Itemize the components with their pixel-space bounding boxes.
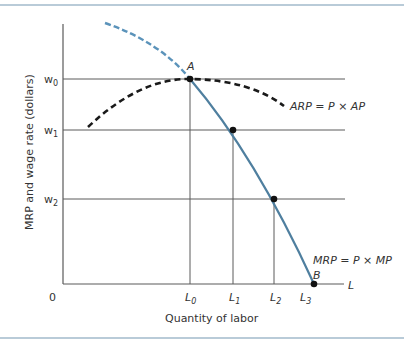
x-tick-l0: L0: [185, 291, 196, 306]
x-tick-l3: L3: [300, 291, 311, 306]
y-tick-w2: w2: [44, 193, 58, 208]
x-tick-l2: L2: [270, 291, 281, 306]
point-w2-l2-dot: [271, 196, 278, 203]
mrp-curve-dashed-segment: [105, 23, 190, 79]
point-b-label: B: [313, 269, 321, 282]
y-tick-w0: w0: [44, 73, 58, 88]
x-tick-l1: L1: [229, 291, 240, 306]
origin-label: 0: [49, 291, 56, 304]
point-a-dot: [187, 76, 194, 83]
x-axis-end-label: L: [348, 279, 354, 292]
point-a-label: A: [186, 60, 195, 73]
y-axis-title: MRP and wage rate (dollars): [23, 74, 36, 230]
mrp-curve-label: MRP = P × MP: [313, 254, 392, 267]
chart: A B ARP = P × AP MRP = P × MP w0 w1 w2 0…: [0, 0, 404, 342]
y-tick-w1: w1: [44, 124, 58, 139]
arp-curve: [88, 79, 284, 127]
point-w1-l1-dot: [230, 127, 237, 134]
x-axis-title: Quantity of labor: [165, 312, 259, 325]
arp-curve-label: ARP = P × AP: [289, 100, 365, 113]
